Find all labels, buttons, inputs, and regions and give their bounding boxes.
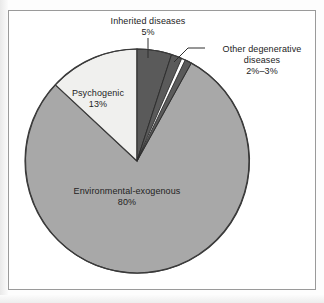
slice-label-environmental-exogenous: Environmental-exogenous 80% [52, 186, 202, 208]
slice-label-other-value: 2%–3% [206, 66, 318, 77]
slice-label-psychogenic-value: 13% [57, 99, 139, 110]
slice-label-other-degenerative-diseases: Other degenerative diseases 2%–3% [206, 44, 318, 77]
slice-label-inherited-value: 5% [96, 27, 200, 38]
slice-label-psychogenic-name: Psychogenic [57, 88, 139, 99]
slice-label-other-name-line1: Other degenerative [206, 44, 318, 55]
slice-label-inherited-name: Inherited diseases [96, 16, 200, 27]
slice-label-psychogenic: Psychogenic 13% [57, 88, 139, 110]
slice-label-inherited-diseases: Inherited diseases 5% [96, 16, 200, 38]
slice-label-environmental-value: 80% [52, 197, 202, 208]
slice-label-environmental-name: Environmental-exogenous [52, 186, 202, 197]
slice-label-other-name-line2: diseases [206, 55, 318, 66]
figure-container: Inherited diseases 5% Other degenerative… [0, 0, 324, 303]
